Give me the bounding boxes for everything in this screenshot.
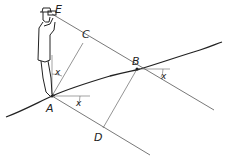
point-a-marker [51,95,54,98]
perpendicular-line-bd [103,69,137,128]
label-e: E [55,3,62,16]
label-b: B [132,55,140,68]
label-d: D [94,131,102,144]
slope-diagram: E C B A D x x x [0,0,227,159]
angle-label-a: x [75,98,82,108]
surveyor-figure-icon [38,8,56,96]
label-c: C [82,28,90,41]
angle-label-b: x [160,71,167,81]
label-a: A [45,102,54,115]
angle-label-person: x [54,67,61,77]
parallel-line-lower [52,96,150,155]
